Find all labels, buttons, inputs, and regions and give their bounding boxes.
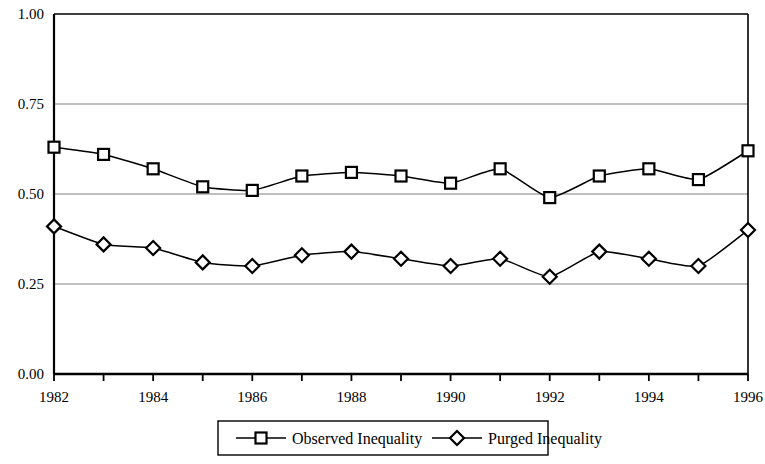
x-tick-label-1990: 1990: [436, 389, 466, 405]
data-point-1983-square: [98, 149, 109, 160]
data-point-1996-square-square: [743, 145, 754, 156]
data-point-1992-square-square: [544, 192, 555, 203]
data-point-1994-square-square: [643, 163, 654, 174]
y-tick-label-0.00: 0.00: [18, 366, 44, 382]
legend-label-0: Observed Inequality: [292, 430, 422, 448]
data-point-1995-square-square: [693, 174, 704, 185]
data-point-1992-square: [544, 192, 555, 203]
legend-marker-square-square: [256, 433, 267, 444]
data-point-1993-square: [594, 171, 605, 182]
data-point-1987-square: [296, 171, 307, 182]
y-tick-label-0.75: 0.75: [18, 96, 44, 112]
data-point-1990-square-square: [445, 178, 456, 189]
data-point-1984-square-square: [148, 163, 159, 174]
x-tick-label-1984: 1984: [138, 389, 169, 405]
x-tick-label-1996: 1996: [733, 389, 764, 405]
x-tick-label-1982: 1982: [39, 389, 69, 405]
legend-item-purged-inequality: Purged Inequality: [432, 430, 602, 448]
data-point-1993-square-square: [594, 171, 605, 182]
data-point-1982-square: [49, 142, 60, 153]
chart-figure: 0.000.250.500.751.00 1982198419861988199…: [0, 0, 765, 464]
data-point-1985-square: [197, 181, 208, 192]
x-tick-label-1986: 1986: [237, 389, 268, 405]
data-point-1986-square-square: [247, 185, 258, 196]
data-point-1991-square: [495, 163, 506, 174]
data-point-1985-square-square: [197, 181, 208, 192]
legend-marker-square: [256, 433, 267, 444]
x-tick-label-1994: 1994: [634, 389, 665, 405]
data-point-1990-square: [445, 178, 456, 189]
y-tick-label-0.25: 0.25: [18, 276, 44, 292]
x-tick-label-1992: 1992: [535, 389, 565, 405]
data-point-1984-square: [148, 163, 159, 174]
data-point-1989-square: [396, 171, 407, 182]
data-point-1994-square: [643, 163, 654, 174]
data-point-1995-square: [693, 174, 704, 185]
legend-label-1: Purged Inequality: [488, 430, 602, 448]
y-tick-label-0.50: 0.50: [18, 186, 44, 202]
x-tick-label-1988: 1988: [336, 389, 366, 405]
data-point-1982-square-square: [49, 142, 60, 153]
y-tick-label-1.00: 1.00: [18, 6, 44, 22]
data-point-1987-square-square: [296, 171, 307, 182]
data-point-1989-square-square: [396, 171, 407, 182]
data-point-1988-square: [346, 167, 357, 178]
data-point-1988-square-square: [346, 167, 357, 178]
chart-legend: Observed InequalityPurged Inequality: [218, 421, 602, 455]
data-point-1983-square-square: [98, 149, 109, 160]
data-point-1991-square-square: [495, 163, 506, 174]
data-point-1996-square: [743, 145, 754, 156]
data-point-1986-square: [247, 185, 258, 196]
line-chart: 0.000.250.500.751.00 1982198419861988199…: [0, 0, 765, 464]
